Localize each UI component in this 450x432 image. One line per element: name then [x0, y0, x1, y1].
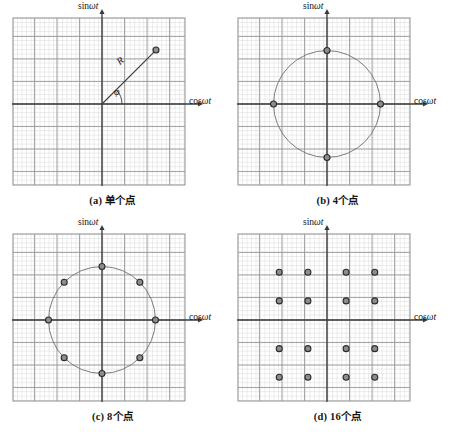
plot-background: [238, 18, 410, 185]
y-axis-label-variable: ωt: [89, 217, 98, 227]
y-axis-label-variable: ωt: [89, 1, 98, 11]
y-axis-arrow: [324, 225, 329, 230]
x-axis-label-variable: ωt: [427, 96, 436, 106]
y-axis-arrow: [99, 225, 104, 230]
constellation-point: [152, 317, 158, 323]
x-axis-label: cosωt: [414, 96, 436, 106]
constellation-points: [153, 47, 159, 53]
y-axis-arrow: [324, 9, 329, 14]
y-axis-label-prefix: sin: [303, 217, 314, 227]
panel-d: sinωtcosωt(d) 16个点: [225, 216, 450, 432]
plot-background: [238, 234, 410, 401]
panel-caption-b: (b) 4个点: [225, 192, 450, 207]
constellation-point: [343, 269, 349, 275]
constellation-point: [276, 298, 282, 304]
panel-caption-c: (c) 8个点: [0, 408, 225, 423]
y-axis-label-prefix: sin: [78, 1, 89, 11]
constellation-point: [305, 269, 311, 275]
y-axis-label: sinωt: [78, 217, 98, 227]
constellation-point: [343, 298, 349, 304]
y-axis-label-variable: ωt: [314, 1, 323, 11]
constellation-point: [324, 48, 330, 54]
constellation-point: [46, 317, 52, 323]
x-axis-label-variable: ωt: [202, 312, 211, 322]
panel-caption-d: (d) 16个点: [225, 408, 450, 423]
constellation-figure: sinωtcosωtRφ(a) 单个点sinωtcosωt(b) 4个点sinω…: [0, 0, 450, 432]
constellation-point: [271, 101, 277, 107]
constellation-point: [377, 101, 383, 107]
x-axis-label: cosωt: [414, 312, 436, 322]
panel-c: sinωtcosωt(c) 8个点: [0, 216, 225, 432]
x-axis-label: cosωt: [189, 312, 211, 322]
constellation-point: [276, 269, 282, 275]
x-axis-label: cosωt: [189, 96, 211, 106]
x-axis-label-prefix: cos: [414, 96, 427, 106]
constellation-point: [276, 374, 282, 380]
panel-a: sinωtcosωtRφ(a) 单个点: [0, 0, 225, 216]
constellation-point: [372, 298, 378, 304]
phase-label: φ: [114, 86, 120, 97]
constellation-point: [61, 355, 67, 361]
constellation-point: [343, 346, 349, 352]
panel-b: sinωtcosωt(b) 4个点: [225, 0, 450, 216]
y-axis-label: sinωt: [303, 1, 323, 11]
y-axis-label: sinωt: [303, 217, 323, 227]
constellation-point: [61, 279, 67, 285]
x-axis-label-prefix: cos: [189, 312, 202, 322]
constellation-point: [324, 154, 330, 160]
constellation-point: [137, 279, 143, 285]
constellation-point: [153, 47, 159, 53]
x-axis-label-prefix: cos: [189, 96, 202, 106]
constellation-point: [99, 264, 105, 270]
plot-background: [13, 234, 185, 401]
constellation-point: [137, 355, 143, 361]
constellation-point: [99, 370, 105, 376]
constellation-point: [276, 346, 282, 352]
constellation-point: [372, 269, 378, 275]
constellation-point: [305, 298, 311, 304]
constellation-point: [305, 374, 311, 380]
y-axis-label-prefix: sin: [78, 217, 89, 227]
constellation-point: [305, 346, 311, 352]
x-axis-label-prefix: cos: [414, 312, 427, 322]
constellation-point: [372, 346, 378, 352]
y-axis-arrow: [99, 9, 104, 14]
y-axis-label-prefix: sin: [303, 1, 314, 11]
plot-background: [13, 18, 185, 185]
constellation-point: [372, 374, 378, 380]
y-axis-label-variable: ωt: [314, 217, 323, 227]
x-axis-label-variable: ωt: [202, 96, 211, 106]
y-axis-label: sinωt: [78, 1, 98, 11]
constellation-point: [343, 374, 349, 380]
panel-caption-a: (a) 单个点: [0, 192, 225, 207]
x-axis-label-variable: ωt: [427, 312, 436, 322]
